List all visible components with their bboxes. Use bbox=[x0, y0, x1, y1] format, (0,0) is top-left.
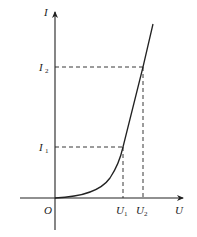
svg-text:I: I bbox=[38, 141, 44, 153]
svg-text:2: 2 bbox=[144, 210, 148, 218]
svg-text:I: I bbox=[38, 61, 44, 73]
svg-text:2: 2 bbox=[45, 67, 49, 75]
svg-text:1: 1 bbox=[124, 210, 128, 218]
iu-diagram: I U O I 2 I 1 U 1 U 2 bbox=[0, 0, 197, 237]
tick-label-u2: U 2 bbox=[136, 204, 148, 218]
tick-label-u1: U 1 bbox=[116, 204, 128, 218]
iu-curve bbox=[55, 24, 153, 198]
y-axis-label: I bbox=[43, 6, 49, 18]
svg-text:1: 1 bbox=[45, 147, 49, 155]
tick-label-i1: I 1 bbox=[38, 141, 49, 155]
tick-label-i2: I 2 bbox=[38, 61, 49, 75]
x-axis-label: U bbox=[175, 204, 184, 216]
origin-label: O bbox=[44, 204, 52, 216]
